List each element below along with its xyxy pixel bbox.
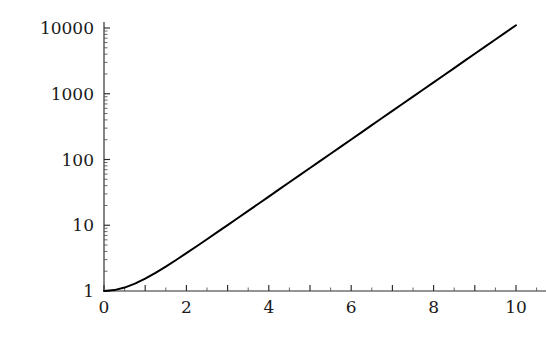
data-curve — [104, 25, 516, 291]
y-tick-label: 100 — [62, 150, 94, 170]
log-plot-figure: 0246810110100100010000 — [0, 0, 546, 338]
y-tick-label: 1000 — [51, 84, 94, 104]
y-tick-label: 10000 — [40, 18, 94, 38]
x-tick-label: 6 — [346, 297, 357, 317]
x-tick-label: 8 — [428, 297, 439, 317]
plot-canvas: 0246810110100100010000 — [0, 0, 546, 338]
x-tick-label: 0 — [99, 297, 110, 317]
x-tick-label: 2 — [181, 297, 192, 317]
y-tick-label: 10 — [72, 215, 94, 235]
y-tick-label: 1 — [83, 281, 94, 301]
x-tick-label: 4 — [263, 297, 274, 317]
x-tick-label: 10 — [505, 297, 527, 317]
